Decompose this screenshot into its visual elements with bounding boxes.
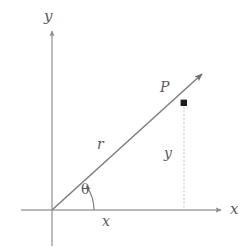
point-p-label: P — [160, 80, 169, 94]
point-p-marker — [181, 100, 187, 106]
radius-label: r — [97, 137, 104, 151]
horizontal-leg-label: x — [102, 214, 110, 228]
angle-theta-label: θ — [81, 182, 89, 196]
x-axis-label: x — [230, 202, 238, 217]
coordinate-diagram-canvas — [0, 0, 252, 251]
vertical-leg-label: y — [164, 146, 172, 160]
y-axis-label: y — [44, 9, 52, 24]
polar-coordinate-figure: y x P r θ y x — [0, 0, 252, 251]
terminal-ray-line — [52, 74, 202, 210]
